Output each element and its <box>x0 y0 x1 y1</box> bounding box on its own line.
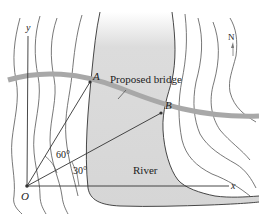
x-axis-label: x <box>230 180 236 191</box>
north-arrow <box>231 42 234 56</box>
bridge-label: Proposed bridge <box>110 73 182 85</box>
origin-label: O <box>21 190 29 202</box>
angle-60-label: 60° <box>56 149 70 160</box>
diagram-svg: y x O A B Proposed bridge River N 60° 30… <box>0 0 259 215</box>
contour-lines-left <box>12 15 82 214</box>
point-B <box>159 111 162 114</box>
contour-lines-right <box>179 14 256 196</box>
point-A <box>88 80 91 83</box>
angle-30-label: 30° <box>73 165 87 176</box>
point-a-label: A <box>92 70 100 82</box>
point-O <box>25 184 29 188</box>
y-axis-label: y <box>25 22 31 33</box>
y-axis <box>27 36 28 186</box>
river-label: River <box>133 164 158 176</box>
river-bridge-diagram: y x O A B Proposed bridge River N 60° 30… <box>0 0 259 215</box>
point-b-label: B <box>165 99 172 111</box>
north-label: N <box>228 32 235 42</box>
